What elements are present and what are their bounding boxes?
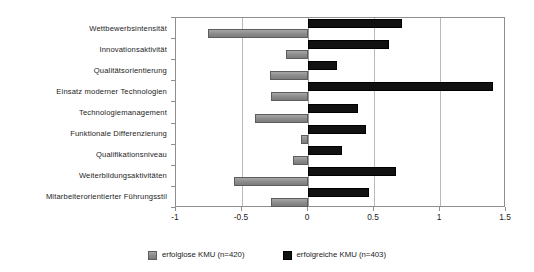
x-axis-tick-mark-0 <box>175 207 176 211</box>
y-axis-tick-4 <box>171 101 175 102</box>
bar-chart-figure: WettbewerbsintensitätInnovationsaktivitä… <box>0 0 534 272</box>
y-axis-tick-0 <box>171 17 175 18</box>
y-axis-tick-9 <box>171 207 175 208</box>
y-axis-tick-7 <box>171 165 175 166</box>
x-axis-tick-mark-2 <box>307 207 308 211</box>
bar-negative-5 <box>301 135 308 144</box>
x-axis-tick-mark-4 <box>439 207 440 211</box>
category-label-4: Technologiemanagement <box>0 108 167 117</box>
x-axis-tick-label-2: 0 <box>305 212 310 222</box>
bar-positive-2 <box>308 61 337 70</box>
bar-positive-4 <box>308 104 358 113</box>
bar-positive-0 <box>308 19 402 28</box>
bar-positive-8 <box>308 188 369 197</box>
bar-negative-1 <box>286 50 308 59</box>
bar-positive-3 <box>308 82 493 91</box>
y-axis-tick-5 <box>171 123 175 124</box>
bar-positive-1 <box>308 40 389 49</box>
chart-legend: erfolglose KMU (n=420)erfolgreiche KMU (… <box>0 245 534 265</box>
y-axis-tick-8 <box>171 186 175 187</box>
category-label-0: Wettbewerbsintensität <box>0 23 167 32</box>
bar-negative-8 <box>271 198 308 207</box>
category-axis-labels: WettbewerbsintensitätInnovationsaktivitä… <box>0 17 175 207</box>
y-axis-tick-6 <box>171 144 175 145</box>
black-swatch-icon <box>283 251 292 260</box>
x-axis-tick-mark-5 <box>505 207 506 211</box>
x-axis-tick-label-0: -1 <box>171 212 178 222</box>
category-label-3: Einsatz moderner Technologien <box>0 86 167 95</box>
bar-negative-3 <box>271 92 308 101</box>
x-axis-tick-label-3: 0.5 <box>367 212 379 222</box>
x-axis-tick-mark-3 <box>373 207 374 211</box>
y-axis-tick-1 <box>171 38 175 39</box>
bar-positive-5 <box>308 125 366 134</box>
y-axis-tick-2 <box>171 59 175 60</box>
bar-positive-7 <box>308 167 396 176</box>
x-axis-tick-mark-1 <box>241 207 242 211</box>
legend-label-1: erfolgreiche KMU (n=403) <box>297 250 387 260</box>
bar-negative-2 <box>270 71 308 80</box>
legend-entry-0: erfolglose KMU (n=420) <box>148 250 245 260</box>
category-label-7: Weiterbildungsaktivitäten <box>0 171 167 180</box>
bar-negative-4 <box>255 114 308 123</box>
legend-entry-1: erfolgreiche KMU (n=403) <box>283 250 387 260</box>
category-label-1: Innovationsaktivität <box>0 44 167 53</box>
bar-negative-0 <box>208 29 308 38</box>
category-label-6: Qualifikationsniveau <box>0 150 167 159</box>
category-label-2: Qualitätsorientierung <box>0 65 167 74</box>
bar-negative-7 <box>234 177 308 186</box>
bar-positive-6 <box>308 146 342 155</box>
category-label-8: Mitarbeiterorientierter Führungsstil <box>0 192 167 201</box>
gray-swatch-icon <box>148 251 157 260</box>
x-axis-tick-label-5: 1.5 <box>499 212 511 222</box>
gridline-1 <box>440 18 441 206</box>
x-axis-tick-label-4: 1 <box>437 212 442 222</box>
category-label-5: Funktionale Differenzierung <box>0 129 167 138</box>
legend-label-0: erfolglose KMU (n=420) <box>162 250 245 260</box>
plot-area <box>175 17 505 207</box>
x-axis-tick-label-1: -0.5 <box>234 212 248 222</box>
bar-negative-6 <box>293 156 308 165</box>
y-axis-tick-3 <box>171 80 175 81</box>
